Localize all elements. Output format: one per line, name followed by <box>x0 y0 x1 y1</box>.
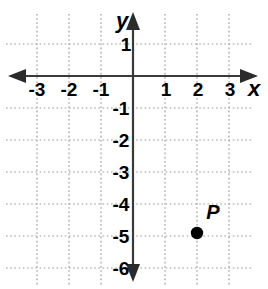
plotted-point-p[interactable]: P <box>191 201 221 239</box>
x-tick-label-minus3: -3 <box>29 79 46 100</box>
coordinate-plane-svg: y x -3 -2 -1 1 2 3 1 -1 -2 -3 -4 -5 -6 P <box>0 0 268 289</box>
coordinate-plane-figure: y x -3 -2 -1 1 2 3 1 -1 -2 -3 -4 -5 -6 P <box>0 0 268 289</box>
x-axis-name-label: x <box>247 76 261 101</box>
y-tick-label-minus1: -1 <box>113 98 130 119</box>
point-label-p: P <box>206 201 220 223</box>
y-tick-label-minus6: -6 <box>113 258 130 279</box>
y-tick-label-minus3: -3 <box>113 162 130 183</box>
y-axis-tick-labels: 1 -1 -2 -3 -4 -5 -6 <box>113 34 132 279</box>
y-tick-label-minus2: -2 <box>113 130 130 151</box>
y-axis-name-label: y <box>115 8 130 33</box>
x-tick-label-plus3: 3 <box>225 79 236 100</box>
x-tick-label-minus2: -2 <box>61 79 78 100</box>
y-tick-label-minus4: -4 <box>113 194 130 215</box>
arrow-left-icon <box>8 69 26 83</box>
x-tick-label-minus1: -1 <box>93 79 110 100</box>
y-tick-label-minus5: -5 <box>113 226 130 247</box>
x-tick-label-plus1: 1 <box>161 79 172 100</box>
point-marker-p[interactable] <box>191 227 203 239</box>
y-tick-label-plus1: 1 <box>121 34 132 55</box>
x-tick-label-plus2: 2 <box>193 79 204 100</box>
